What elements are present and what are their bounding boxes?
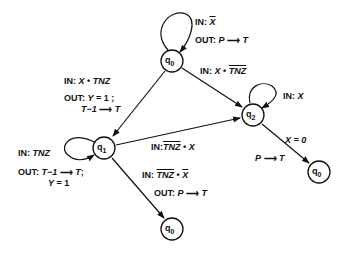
edge-label-q1-q0-out: OUT: P ⟶ T xyxy=(154,188,207,198)
edge-label-q0-q1-out-2: T−1 ⟶ T xyxy=(81,104,120,114)
edge-label-q2-self-in: IN: X xyxy=(283,91,304,101)
edge-q0-to-q1 xyxy=(113,71,165,136)
edge-label-q1-self-out-2: Y = 1 xyxy=(48,178,69,188)
node-label-q0-right: q0 xyxy=(312,166,321,180)
node-label-q0-bottom: q0 xyxy=(165,223,174,237)
self-loop-q1 xyxy=(64,138,96,160)
edge-label-q0-q1-in: IN: X • TNZ xyxy=(64,76,110,86)
edge-label-q2-q0-out: P ⟶ T xyxy=(255,153,285,163)
self-loop-q0 xyxy=(161,13,192,52)
edge-q1-to-q2 xyxy=(116,118,240,145)
edge-label-q1-self-in: IN: TNZ xyxy=(18,148,50,158)
edge-label-q0-q2-in: IN: X • TNZ xyxy=(200,66,246,76)
edge-label-q1-q2-in: IN:TNZ • X xyxy=(151,142,195,152)
node-label-q1: q1 xyxy=(97,142,106,156)
node-label-q0-top: q0 xyxy=(165,55,174,69)
edge-label-q0-q1-out-1: OUT: Y = 1 ; xyxy=(64,93,114,103)
edge-label-q1-self-out-1: OUT: T−1 ⟶ T; xyxy=(18,167,84,177)
edge-label-q2-q0-in: X = 0 xyxy=(285,135,306,145)
edge-label-q0-self-in: IN: X xyxy=(195,17,216,27)
state-diagram xyxy=(0,0,345,256)
node-label-q2: q2 xyxy=(246,109,255,123)
edge-label-q1-q0-in: IN: TNZ • X xyxy=(142,170,188,180)
edge-label-q0-self-out: OUT: P ⟶ T xyxy=(195,35,248,45)
